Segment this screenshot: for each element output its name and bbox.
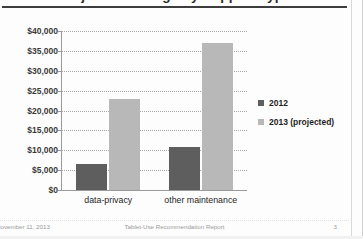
y-axis-tick-label: $40,000	[27, 26, 58, 36]
x-axis-category-label: data-privacy	[84, 195, 132, 205]
y-axis-tick-label: $35,000	[27, 46, 58, 56]
legend-label: 2012	[269, 98, 288, 108]
x-axis-line	[62, 190, 247, 191]
y-axis-tick-label: $5,000	[32, 165, 58, 175]
legend-label: 2013 (projected)	[269, 117, 334, 127]
bar-data-privacy-2013-projected-[interactable]	[109, 99, 140, 190]
bar-other-maintenance-2013-projected-[interactable]	[202, 43, 233, 190]
legend-swatch-icon	[258, 100, 264, 106]
bar-data-privacy-2012[interactable]	[76, 164, 107, 190]
x-axis-category-label: other maintenance	[164, 195, 237, 205]
y-axis-tick-label: $25,000	[27, 86, 58, 96]
legend-item[interactable]: 2012	[258, 98, 350, 108]
y-axis-tick-label: $20,000	[27, 106, 58, 116]
bar-group	[62, 31, 155, 190]
legend-swatch-icon	[258, 119, 264, 125]
page-bottom-edge	[0, 236, 363, 239]
chart-legend: 20122013 (projected)	[258, 98, 350, 136]
legend-item[interactable]: 2013 (projected)	[258, 117, 350, 127]
bar-other-maintenance-2012[interactable]	[169, 147, 200, 190]
y-axis-labels: $0$5,000$10,000$15,000$20,000$25,000$30,…	[0, 31, 58, 190]
slide-footer: November 11, 2013 Tablet-Use Recommendat…	[0, 223, 349, 233]
footer-page-number: 3	[334, 223, 337, 230]
footer-document-title: Tablet-Use Recommendation Report	[0, 223, 349, 230]
title-divider	[2, 6, 347, 8]
bar-group	[155, 31, 248, 190]
y-axis-tick-label: $30,000	[27, 66, 58, 76]
y-axis-tick-label: $0	[49, 185, 58, 195]
footer-divider	[0, 220, 349, 221]
y-axis-tick-label: $10,000	[27, 145, 58, 155]
slide-canvas: Projected Savings by Support Type $0$5,0…	[0, 0, 363, 239]
y-axis-tick	[58, 190, 62, 191]
y-axis-tick-label: $15,000	[27, 125, 58, 135]
slide-title: Projected Savings by Support Type	[0, 0, 349, 4]
page-right-margin	[351, 0, 352, 239]
plot-area	[62, 31, 247, 190]
